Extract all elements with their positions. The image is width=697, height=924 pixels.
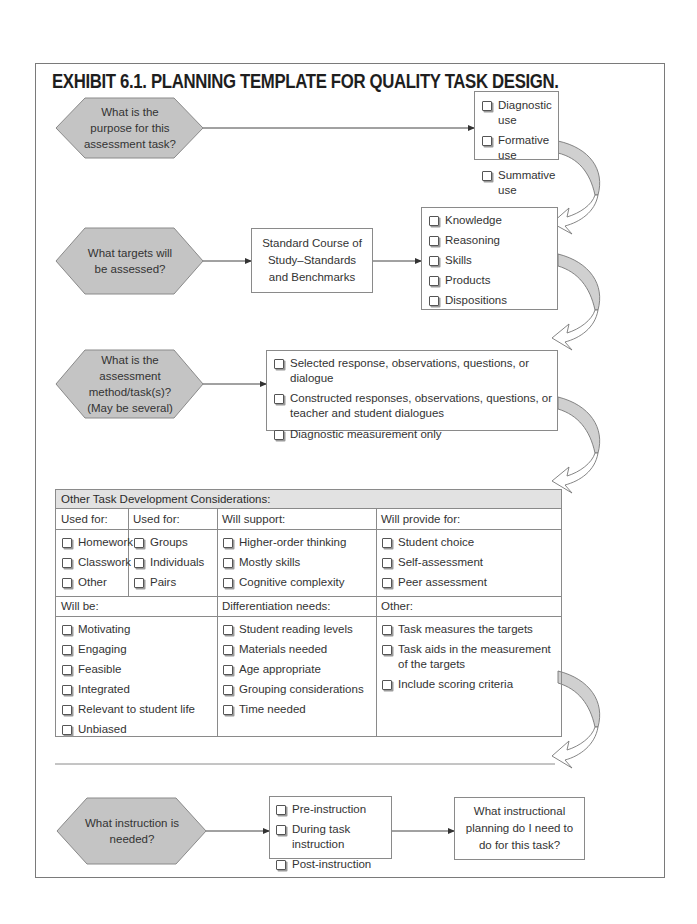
checkbox-icon[interactable] (382, 625, 392, 635)
option-summative-use[interactable]: Summative use (481, 168, 558, 198)
checkbox-icon[interactable] (223, 625, 233, 635)
checkbox-icon[interactable] (134, 578, 144, 588)
standards-box: Standard Course of Study–Standards and B… (251, 228, 373, 293)
option-post-instruction[interactable]: Post-instruction (275, 857, 391, 872)
option-time-needed[interactable]: Time needed (222, 702, 364, 717)
purpose-options-box: Diagnostic use Formative use Summative u… (474, 91, 559, 160)
checkbox-icon[interactable] (429, 216, 439, 226)
option-pairs[interactable]: Pairs (133, 575, 204, 590)
checkbox-icon[interactable] (62, 725, 72, 735)
option-selected-response[interactable]: Selected response, observations, questio… (273, 356, 553, 386)
used-for-2-options: Groups Individuals Pairs (133, 535, 204, 590)
option-relevant[interactable]: Relevant to student life (61, 702, 195, 717)
option-task-measures[interactable]: Task measures the targets (381, 622, 557, 637)
checkbox-icon[interactable] (482, 136, 492, 146)
option-formative-use[interactable]: Formative use (481, 133, 558, 163)
checkbox-icon[interactable] (429, 296, 439, 306)
option-during-task[interactable]: During task instruction (275, 822, 391, 852)
option-dispositions[interactable]: Dispositions (428, 293, 557, 308)
option-pre-instruction[interactable]: Pre-instruction (275, 802, 391, 817)
col-will-provide-label: Will provide for: (376, 509, 561, 529)
option-mostly-skills[interactable]: Mostly skills (222, 555, 346, 570)
option-cognitive-complexity[interactable]: Cognitive complexity (222, 575, 346, 590)
checkbox-icon[interactable] (62, 558, 72, 568)
option-products[interactable]: Products (428, 273, 557, 288)
checkbox-icon[interactable] (429, 256, 439, 266)
option-age-appropriate[interactable]: Age appropriate (222, 662, 364, 677)
checkbox-icon[interactable] (62, 665, 72, 675)
checkbox-icon[interactable] (223, 578, 233, 588)
checkbox-icon[interactable] (382, 578, 392, 588)
option-diagnostic-measurement[interactable]: Diagnostic measurement only (273, 427, 553, 442)
checkbox-icon[interactable] (223, 685, 233, 695)
option-higher-order-thinking[interactable]: Higher-order thinking (222, 535, 346, 550)
will-be-options: Motivating Engaging Feasible Integrated … (61, 622, 195, 737)
step1-question: What is the purpose for this assessment … (80, 100, 180, 156)
col-will-be-label: Will be: (56, 596, 217, 616)
checkbox-icon[interactable] (223, 558, 233, 568)
checkbox-icon[interactable] (134, 558, 144, 568)
differentiation-options: Student reading levels Materials needed … (222, 622, 364, 717)
checkbox-icon[interactable] (482, 171, 492, 181)
option-homework[interactable]: Homework (61, 535, 133, 550)
checkbox-icon[interactable] (223, 705, 233, 715)
option-classwork[interactable]: Classwork (61, 555, 133, 570)
option-groups[interactable]: Groups (133, 535, 204, 550)
checkbox-icon[interactable] (223, 645, 233, 655)
col-used-for-2-label: Used for: (128, 509, 217, 529)
checkbox-icon[interactable] (62, 625, 72, 635)
checkbox-icon[interactable] (276, 860, 286, 870)
option-reasoning[interactable]: Reasoning (428, 233, 557, 248)
option-feasible[interactable]: Feasible (61, 662, 195, 677)
option-self-assessment[interactable]: Self-assessment (381, 555, 487, 570)
option-diagnostic-use[interactable]: Diagnostic use (481, 98, 558, 128)
col-other-label: Other: (376, 596, 561, 616)
checkbox-icon[interactable] (223, 665, 233, 675)
checkbox-icon[interactable] (382, 645, 392, 655)
checkbox-icon[interactable] (274, 359, 284, 369)
checkbox-icon[interactable] (62, 538, 72, 548)
option-materials-needed[interactable]: Materials needed (222, 642, 364, 657)
option-unbiased[interactable]: Unbiased (61, 722, 195, 737)
table-header: Other Task Development Considerations: (56, 490, 561, 509)
option-integrated[interactable]: Integrated (61, 682, 195, 697)
checkbox-icon[interactable] (429, 276, 439, 286)
option-skills[interactable]: Skills (428, 253, 557, 268)
checkbox-icon[interactable] (429, 236, 439, 246)
option-student-choice[interactable]: Student choice (381, 535, 487, 550)
targets-options-box: Knowledge Reasoning Skills Products Disp… (421, 207, 558, 310)
option-grouping[interactable]: Grouping considerations (222, 682, 364, 697)
checkbox-icon[interactable] (482, 101, 492, 111)
exhibit-title: EXHIBIT 6.1. PLANNING TEMPLATE FOR QUALI… (52, 70, 559, 93)
checkbox-icon[interactable] (276, 825, 286, 835)
checkbox-icon[interactable] (382, 680, 392, 690)
checkbox-icon[interactable] (223, 538, 233, 548)
checkbox-icon[interactable] (134, 538, 144, 548)
option-knowledge[interactable]: Knowledge (428, 213, 557, 228)
checkbox-icon[interactable] (62, 645, 72, 655)
checkbox-icon[interactable] (62, 705, 72, 715)
step2-question: What targets will be assessed? (80, 232, 180, 290)
checkbox-icon[interactable] (274, 394, 284, 404)
col-used-for-1-label: Used for: (56, 509, 128, 529)
checkbox-icon[interactable] (382, 538, 392, 548)
checkbox-icon[interactable] (62, 578, 72, 588)
checkbox-icon[interactable] (62, 685, 72, 695)
will-provide-options: Student choice Self-assessment Peer asse… (381, 535, 487, 590)
option-other[interactable]: Other (61, 575, 133, 590)
method-options-box: Selected response, observations, questio… (266, 350, 558, 431)
checkbox-icon[interactable] (274, 430, 284, 440)
option-scoring-criteria[interactable]: Include scoring criteria (381, 677, 557, 692)
considerations-table: Other Task Development Considerations: U… (55, 489, 562, 737)
option-individuals[interactable]: Individuals (133, 555, 204, 570)
step3-question: What is the assessment method/task(s)? (… (80, 352, 180, 416)
option-motivating[interactable]: Motivating (61, 622, 195, 637)
checkbox-icon[interactable] (382, 558, 392, 568)
option-task-aids[interactable]: Task aids in the measurement of the targ… (381, 642, 557, 672)
option-reading-levels[interactable]: Student reading levels (222, 622, 364, 637)
checkbox-icon[interactable] (276, 805, 286, 815)
will-support-options: Higher-order thinking Mostly skills Cogn… (222, 535, 346, 590)
option-constructed-responses[interactable]: Constructed responses, observations, que… (273, 391, 553, 421)
option-engaging[interactable]: Engaging (61, 642, 195, 657)
option-peer-assessment[interactable]: Peer assessment (381, 575, 487, 590)
